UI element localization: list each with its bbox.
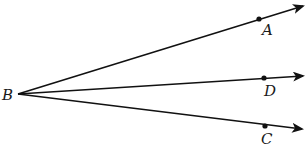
point-C [262, 123, 267, 128]
point-label-A: A [260, 21, 273, 39]
point-label-C: C [261, 130, 273, 147]
point-D [261, 75, 266, 80]
point-A [256, 16, 261, 21]
ray-BD [18, 76, 303, 94]
vertex-label-B: B [1, 86, 13, 104]
angle-diagram: B A D C [0, 0, 307, 147]
point-label-D: D [263, 82, 276, 100]
ray-BC [18, 94, 302, 129]
